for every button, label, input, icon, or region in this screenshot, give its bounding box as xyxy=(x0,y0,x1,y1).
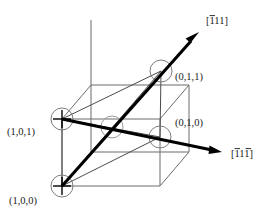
cube-edge-depth-bottom-right xyxy=(160,152,189,186)
cube-wireframe xyxy=(62,20,189,186)
direction-vectors xyxy=(62,32,222,186)
plane-edge-100-to-010 xyxy=(62,137,160,186)
label-lattice-site-101: (1,0,1) xyxy=(7,126,35,138)
plane-edge-101-to-011 xyxy=(62,71,161,119)
label-direction-111bar-first-text: [111] xyxy=(206,15,228,26)
direction-vector-111bar-first-shaft xyxy=(62,41,191,186)
label-direction-111bar-first-third: [111] xyxy=(231,148,253,159)
label-lattice-site-011: (0,1,1) xyxy=(175,71,203,83)
label-direction-111bar-first: [111] xyxy=(206,15,228,26)
plane-edge-010-to-011 xyxy=(160,71,161,137)
label-lattice-site-010: (0,1,0) xyxy=(175,117,203,129)
crystal-diagram-container: [111] [111] (1,0,1) (1,0,0) (0,1,1) (0,1… xyxy=(0,0,269,219)
label-direction-111bar-first-third-text: [111] xyxy=(231,148,253,159)
cube-edge-depth-top-left xyxy=(62,85,91,119)
direction-vector-111bar-first-third-arrowhead xyxy=(209,146,223,155)
direction-vector-111bar-first-arrowhead xyxy=(186,32,200,43)
crystal-direction-diagram: [111] [111] (1,0,1) (1,0,0) (0,1,1) (0,1… xyxy=(0,0,269,219)
label-lattice-site-100: (1,0,0) xyxy=(9,195,37,207)
cube-edge-depth-top-right xyxy=(160,85,189,119)
